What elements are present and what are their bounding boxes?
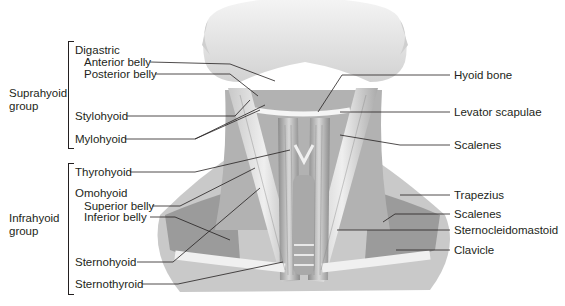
suprahyoid-label-line1: Suprahyoid xyxy=(9,87,67,100)
suprahyoid-bracket xyxy=(68,41,74,149)
label-clavicle: Clavicle xyxy=(454,244,494,257)
label-scalenes-upper: Scalenes xyxy=(454,139,501,152)
infrahyoid-label-line2: group xyxy=(9,225,60,238)
label-inferior-belly: Inferior belly xyxy=(84,211,147,224)
label-sternocleidomastoid: Sternocleidomastoid xyxy=(454,224,558,237)
label-sternohyoid: Sternohyoid xyxy=(75,256,136,269)
label-mylohyoid: Mylohyoid xyxy=(75,133,127,146)
label-stylohyoid: Stylohyoid xyxy=(75,110,128,123)
suprahyoid-group-label: Suprahyoid group xyxy=(9,87,67,113)
label-thyrohyoid: Thyrohyoid xyxy=(75,166,132,179)
suprahyoid-label-line2: group xyxy=(9,100,67,113)
label-trapezius: Trapezius xyxy=(454,189,504,202)
label-posterior-belly: Posterior belly xyxy=(84,68,157,81)
infrahyoid-group-label: Infrahyoid group xyxy=(9,212,60,238)
label-omohyoid: Omohyoid xyxy=(75,187,127,200)
infrahyoid-bracket xyxy=(68,163,74,295)
label-sternothyroid: Sternothyroid xyxy=(75,278,143,291)
label-scalenes-lower: Scalenes xyxy=(454,208,501,221)
label-hyoid-bone: Hyoid bone xyxy=(454,69,512,82)
label-levator-scapulae: Levator scapulae xyxy=(454,106,542,119)
infrahyoid-label-line1: Infrahyoid xyxy=(9,212,60,225)
neck-muscles-figure: Suprahyoid group Infrahyoid group Digast… xyxy=(0,0,565,306)
